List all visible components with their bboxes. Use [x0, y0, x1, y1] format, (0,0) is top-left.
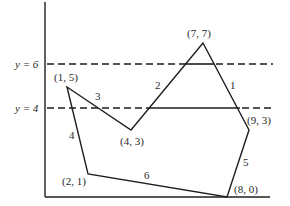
- polygon: [67, 43, 249, 197]
- polygon-scanline-diagram: y = 6 y = 4 (7, 7) (9, 3) (8, 0) (2, 1) …: [0, 0, 290, 206]
- vertex-label-9-3: (9, 3): [247, 114, 271, 127]
- vertex-label-1-5: (1, 5): [54, 71, 78, 84]
- vertex-label-7-7: (7, 7): [187, 27, 211, 40]
- scanline-y4-label: y = 4: [14, 102, 39, 114]
- scanline-y6-label: y = 6: [14, 58, 39, 70]
- edge-label-3: 3: [95, 90, 101, 102]
- edge-label-2: 2: [155, 79, 161, 91]
- vertex-label-4-3: (4, 3): [120, 135, 144, 148]
- edge-label-1: 1: [230, 79, 236, 91]
- edge-label-4: 4: [69, 129, 75, 141]
- edge-label-5: 5: [243, 156, 249, 168]
- scanline-y4: y = 4: [14, 102, 273, 114]
- vertex-label-8-0: (8, 0): [234, 183, 258, 196]
- vertex-label-2-1: (2, 1): [62, 175, 86, 188]
- scanline-y6: y = 6: [14, 58, 273, 70]
- edge-label-6: 6: [144, 169, 150, 181]
